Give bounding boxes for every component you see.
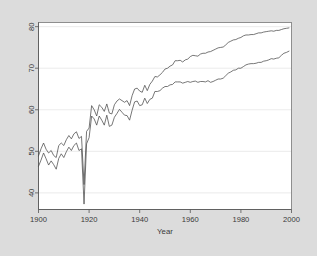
chart-canvas: 4050607080 190019201940196019802000 Year (0, 0, 317, 256)
y-tick-label: 50 (27, 147, 36, 155)
y-tick-label: 60 (27, 106, 36, 114)
x-tick-label: 2000 (283, 215, 300, 224)
x-tick-label: 1980 (232, 215, 249, 224)
y-tick-label: 40 (27, 189, 36, 197)
x-tick-label: 1960 (182, 215, 199, 224)
x-tick-label: 1920 (81, 215, 98, 224)
plot-area-background (39, 23, 292, 210)
y-tick-label: 70 (27, 64, 36, 72)
chart-screenshot: 4050607080 190019201940196019802000 Year (0, 0, 317, 256)
x-tick-label: 1940 (131, 215, 148, 224)
x-tick-label: 1900 (30, 215, 47, 224)
x-axis-title: Year (157, 227, 173, 236)
y-tick-label: 80 (27, 22, 36, 30)
line-chart-figure: 4050607080 190019201940196019802000 Year (0, 0, 317, 256)
